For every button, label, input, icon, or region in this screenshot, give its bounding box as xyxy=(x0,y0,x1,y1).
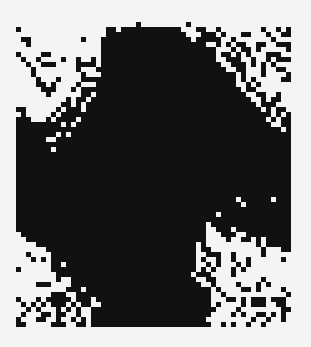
pixel-cell xyxy=(291,322,296,327)
binary-pixel-grid xyxy=(16,22,296,327)
